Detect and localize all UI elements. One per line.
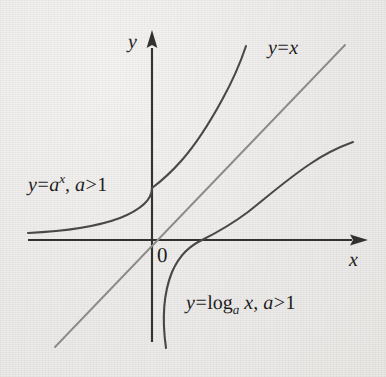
logarithm-curve-label: y=loga x, a>1 — [186, 293, 296, 316]
x-axis-label: x — [349, 250, 358, 270]
figure-container: y x 0 y=x y=ax, a>1 y=loga x, a>1 — [0, 0, 386, 377]
logarithm-comma: , — [253, 292, 258, 314]
logarithm-equals: = — [195, 292, 207, 314]
identity-lhs: y — [268, 37, 277, 59]
exponential-lhs: y — [28, 174, 37, 196]
identity-rhs: x — [289, 37, 298, 59]
logarithm-function: log — [207, 292, 233, 314]
exponential-condition-base: a — [75, 174, 85, 196]
logarithm-condition-operator: > — [273, 292, 285, 314]
identity-line-label: y=x — [268, 38, 298, 58]
y-axis-label: y — [128, 32, 137, 52]
exponential-condition-value: 1 — [97, 174, 107, 196]
origin-label: 0 — [157, 245, 168, 266]
logarithm-subscript: a — [233, 302, 240, 317]
exponential-condition-operator: > — [85, 174, 97, 196]
logarithm-lhs: y — [186, 292, 195, 314]
logarithm-argument: x — [244, 292, 253, 314]
exponential-curve — [28, 46, 246, 233]
exponential-base: a — [49, 174, 59, 196]
logarithm-curve — [164, 142, 353, 348]
x-axis — [28, 235, 368, 246]
logarithm-condition-value: 1 — [286, 292, 296, 314]
exponential-comma: , — [65, 174, 70, 196]
exponential-curve-label: y=ax, a>1 — [28, 172, 107, 195]
exponential-equals: = — [37, 174, 49, 196]
logarithm-condition-base: a — [263, 292, 273, 314]
identity-equals: = — [277, 37, 289, 59]
